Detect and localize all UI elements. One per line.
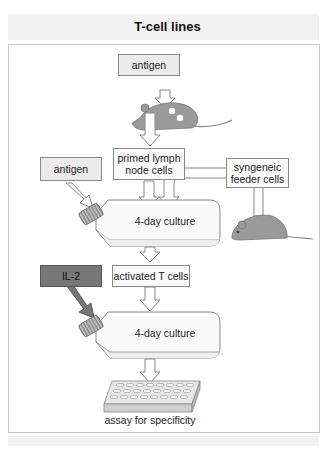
mouse-icon-feeder: [232, 215, 313, 240]
arrow-il2-to-culture2: [66, 285, 94, 318]
arrow-activated-to-culture2: [140, 287, 160, 311]
primed-lymph-node-box: primed lymph node cells: [113, 148, 185, 180]
antigen-top-box: antigen: [118, 54, 180, 76]
activated-t-cells-box: activated T cells: [112, 265, 190, 287]
connector-feeder-mouse: [254, 186, 263, 216]
primed-line2: node cells: [125, 164, 172, 176]
culture2-label: 4-day culture: [120, 327, 210, 339]
syngeneic-line2: feeder cells: [231, 173, 285, 185]
assay-label: assay for specificity: [100, 414, 200, 426]
syngeneic-feeder-box: syngeneic feeder cells: [226, 158, 289, 188]
arrow-culture2-to-assay: [140, 359, 160, 383]
activated-label: activated T cells: [114, 270, 189, 282]
culture1-label: 4-day culture: [120, 215, 210, 227]
arrow-culture1-to-activated: [140, 247, 160, 262]
il2-label: IL-2: [62, 270, 80, 282]
antigen-left-box: antigen: [40, 157, 102, 181]
antigen-top-label: antigen: [132, 59, 166, 71]
il2-box: IL-2: [40, 265, 102, 287]
arrow-antigen-to-culture1: [66, 183, 93, 208]
primed-line1: primed lymph: [117, 152, 180, 164]
syngeneic-line1: syngeneic: [234, 161, 281, 173]
microplate-icon: [104, 381, 200, 412]
antigen-left-label: antigen: [54, 163, 88, 175]
